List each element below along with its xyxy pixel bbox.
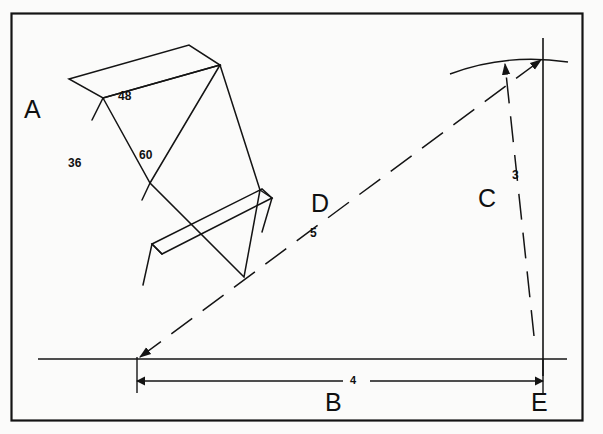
shape-a-tick-lower-left bbox=[142, 183, 150, 200]
shape-a-tick-upper-left bbox=[92, 98, 103, 120]
shape-a-tick-right bbox=[260, 190, 272, 198]
diagram-page: A 48 36 60 D 5 C 3 4 B E bbox=[0, 0, 603, 434]
shape-a-tick-bottom bbox=[143, 244, 152, 285]
label-side-60: 60 bbox=[139, 149, 152, 161]
dashed-line-3 bbox=[505, 64, 534, 336]
label-segment-5: 5 bbox=[310, 227, 317, 239]
label-side-36: 36 bbox=[68, 157, 81, 169]
label-segment-3: 3 bbox=[512, 169, 519, 181]
label-shape-a: A bbox=[24, 97, 41, 122]
label-side-48: 48 bbox=[118, 90, 131, 102]
label-point-c: C bbox=[478, 186, 496, 211]
label-point-e: E bbox=[531, 390, 548, 415]
label-dimension-4: 4 bbox=[350, 375, 356, 386]
shape-a-group bbox=[69, 45, 272, 285]
construction-arc bbox=[450, 59, 568, 74]
label-point-b: B bbox=[325, 390, 342, 415]
figure-canvas bbox=[0, 0, 603, 434]
label-point-d: D bbox=[311, 191, 329, 216]
shape-a-tick-bottom-right bbox=[152, 244, 162, 254]
shape-a-diagonal-60 bbox=[150, 65, 220, 183]
